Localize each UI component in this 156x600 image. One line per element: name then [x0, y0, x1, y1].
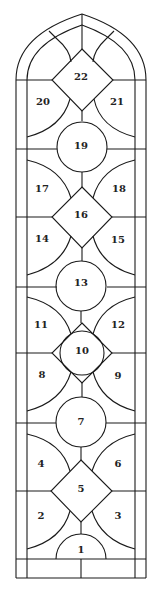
panel-label-16: 16	[74, 209, 88, 220]
circle-19	[57, 122, 107, 187]
panel-label-4: 4	[38, 458, 45, 469]
panel-label-12: 12	[111, 319, 125, 330]
panel-label-18: 18	[112, 183, 126, 194]
stained-glass-window-diagram: 1 2 3 4 5 6 7 8 9 10 11 12 13 14 15 16 1…	[0, 0, 156, 600]
panel-label-1: 1	[78, 544, 85, 555]
panel-label-15: 15	[111, 234, 125, 245]
panel-label-6: 6	[115, 458, 122, 469]
panel-label-17: 17	[35, 183, 49, 194]
panel-label-5: 5	[78, 483, 85, 494]
panel-label-8: 8	[39, 369, 46, 380]
circle-13	[56, 261, 106, 323]
panel-label-13: 13	[74, 277, 88, 288]
panel-label-9: 9	[115, 370, 122, 381]
panel-label-3: 3	[115, 510, 122, 521]
panel-label-21: 21	[110, 96, 124, 107]
panel-labels: 1 2 3 4 5 6 7 8 9 10 11 12 13 14 15 16 1…	[34, 71, 126, 555]
panel-label-10: 10	[75, 345, 89, 356]
panel-label-19: 19	[74, 140, 88, 151]
panel-label-11: 11	[34, 319, 48, 330]
panel-label-20: 20	[36, 96, 50, 107]
panel-label-7: 7	[78, 416, 85, 427]
window-leading-svg: 1 2 3 4 5 6 7 8 9 10 11 12 13 14 15 16 1…	[0, 0, 156, 600]
panel-label-14: 14	[35, 233, 49, 244]
panel-label-22: 22	[74, 71, 88, 82]
circle-7	[56, 397, 106, 460]
panel-label-2: 2	[38, 510, 45, 521]
